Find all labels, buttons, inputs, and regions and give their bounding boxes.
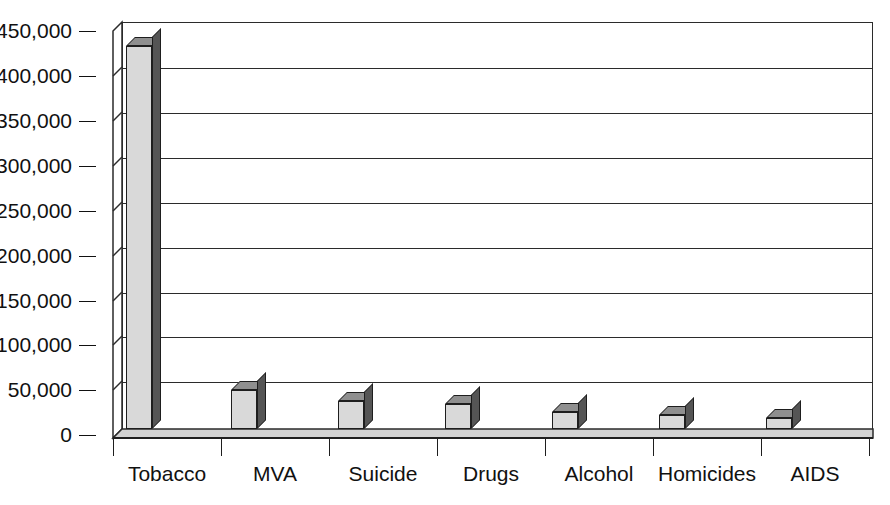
bar-front-face <box>445 404 471 429</box>
y-tick-label-300000: 300,000 <box>0 155 72 176</box>
y-tick-label-200000: 200,000 <box>0 245 72 266</box>
x-tick-mark-0 <box>113 438 114 456</box>
y-tick-mark-200000 <box>79 256 96 257</box>
y-tick-mark-350000 <box>79 121 96 122</box>
x-tick-mark-2 <box>329 438 330 456</box>
x-tick-label-suicide: Suicide <box>349 462 418 485</box>
x-tick-mark-6 <box>761 438 762 456</box>
y-tick-label-400000: 400,000 <box>0 65 72 86</box>
x-tick-label-drugs: Drugs <box>463 462 519 485</box>
bar-aids[interactable] <box>766 409 792 429</box>
x-tick-label-mva: MVA <box>253 462 297 485</box>
bar-tobacco[interactable] <box>126 37 152 429</box>
bar-alcohol[interactable] <box>552 403 578 429</box>
x-tick-label-tobacco: Tobacco <box>128 462 206 485</box>
y-tick-label-250000: 250,000 <box>0 200 72 221</box>
y-tick-mark-450000 <box>79 31 96 32</box>
x-axis-line <box>113 437 873 439</box>
y-tick-mark-300000 <box>79 166 96 167</box>
y-tick-mark-150000 <box>79 301 96 302</box>
plot-3d-depth <box>113 22 873 438</box>
bar-mva[interactable] <box>231 381 257 429</box>
bar-chart: 450,000 400,000 350,000 300,000 250,000 … <box>0 0 890 505</box>
y-tick-mark-400000 <box>79 76 96 77</box>
y-tick-mark-250000 <box>79 211 96 212</box>
y-tick-label-0: 0 <box>60 424 72 445</box>
y-tick-mark-100000 <box>79 345 96 346</box>
y-tick-label-450000: 450,000 <box>0 20 72 41</box>
y-tick-label-150000: 150,000 <box>0 290 72 311</box>
y-tick-label-50000: 50,000 <box>8 379 72 400</box>
y-tick-mark-50000 <box>79 390 96 391</box>
x-tick-mark-4 <box>545 438 546 456</box>
y-tick-mark-0 <box>79 435 96 436</box>
bar-front-face <box>552 412 578 429</box>
y-tick-label-100000: 100,000 <box>0 334 72 355</box>
x-tick-mark-7 <box>869 438 870 456</box>
x-tick-mark-1 <box>221 438 222 456</box>
bar-front-face <box>126 46 152 429</box>
y-tick-label-350000: 350,000 <box>0 110 72 131</box>
bar-side-face <box>152 28 161 429</box>
y-axis: 450,000 400,000 350,000 300,000 250,000 … <box>0 0 96 460</box>
bar-drugs[interactable] <box>445 395 471 429</box>
bar-front-face <box>338 401 364 429</box>
x-tick-label-homicides: Homicides <box>658 462 756 485</box>
bar-front-face <box>766 418 792 429</box>
bar-suicide[interactable] <box>338 392 364 429</box>
x-tick-mark-3 <box>437 438 438 456</box>
x-tick-label-alcohol: Alcohol <box>565 462 634 485</box>
bar-side-face <box>257 372 266 429</box>
bar-homicides[interactable] <box>659 406 685 429</box>
bar-front-face <box>231 390 257 429</box>
x-tick-label-aids: AIDS <box>790 462 839 485</box>
bar-front-face <box>659 415 685 429</box>
x-tick-mark-5 <box>653 438 654 456</box>
plot-area <box>113 22 873 438</box>
